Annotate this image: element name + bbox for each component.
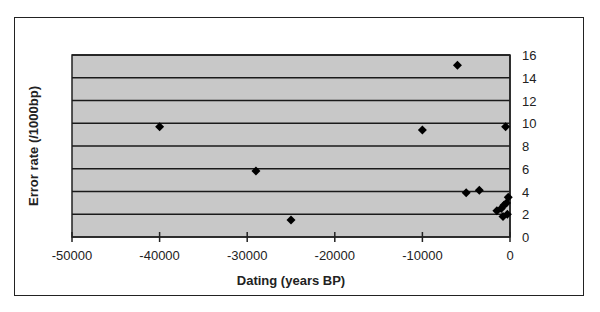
x-tick-label: 0 [506,248,513,263]
y-tick-label: 14 [522,71,536,86]
y-tick-label: 10 [522,116,536,131]
y-tick-label: 16 [522,48,536,63]
y-tick-label: 2 [522,207,529,222]
plot-area [72,55,510,237]
x-tick-label: -30000 [227,248,267,263]
y-tick-label: 6 [522,162,529,177]
y-tick-label: 4 [522,185,529,200]
x-axis-title: Dating (years BP) [237,273,345,288]
scatter-chart: -50000-40000-30000-20000-100000 02468101… [0,0,600,312]
y-tick-label: 0 [522,230,529,245]
x-tick-label: -50000 [52,248,92,263]
x-tick-label: -10000 [402,248,442,263]
y-tick-label: 12 [522,94,536,109]
y-axis: 0246810121416 [510,48,536,245]
y-axis-title: Error rate (/1000bp) [26,86,41,206]
y-tick-label: 8 [522,139,529,154]
x-tick-label: -20000 [315,248,355,263]
x-tick-label: -40000 [139,248,179,263]
x-axis: -50000-40000-30000-20000-100000 [52,232,514,263]
